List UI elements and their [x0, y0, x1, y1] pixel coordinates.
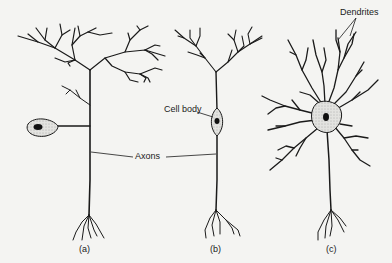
axons-label: Axons: [135, 152, 160, 161]
cell-body-label: Cell body: [164, 105, 202, 114]
neuron-a-side-dendrite: [62, 86, 90, 105]
axons-leader-left: [91, 152, 133, 157]
neuron-a-axon: [89, 70, 90, 215]
neuron-a-nucleus: [34, 124, 43, 130]
panel-a-caption: (a): [79, 245, 90, 254]
neuron-a-dendrites: [18, 24, 165, 82]
panel-c-caption: (c): [326, 245, 337, 254]
neuron-c-terminals: [318, 210, 346, 240]
panel-b-caption: (b): [210, 245, 221, 254]
neuron-a-cell-body: [27, 119, 58, 136]
neuron-b-dendrites: [175, 27, 262, 72]
neuron-c-nucleus: [323, 113, 329, 121]
axons-leader-right: [166, 154, 216, 157]
neuron-c-axon: [327, 130, 331, 210]
neuron-b-axon: [216, 134, 217, 210]
neuron-c: [262, 30, 378, 240]
neuron-drawings: [0, 0, 392, 263]
neuron-types-diagram: Dendrites Cell body Axons (a) (b) (c): [0, 0, 392, 263]
neuron-b-nucleus: [215, 118, 220, 124]
dendrites-label: Dendrites: [340, 8, 379, 17]
neuron-a-terminals: [73, 215, 104, 240]
neuron-b-terminals: [205, 210, 240, 238]
neuron-c-dendrites: [262, 30, 378, 170]
